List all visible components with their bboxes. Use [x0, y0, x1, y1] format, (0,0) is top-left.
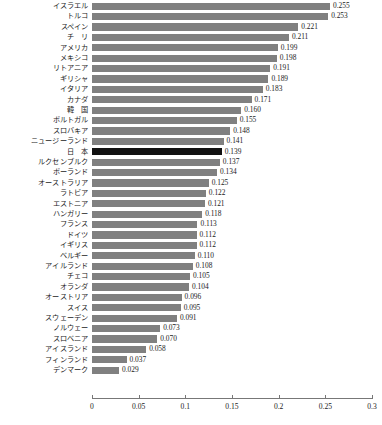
bar-value-label: 0.189 [271, 74, 288, 84]
category-label: チ リ [0, 32, 88, 42]
bar [92, 283, 189, 290]
bar-row: スロベニア0.070 [0, 334, 382, 344]
category-label: スイス [0, 303, 88, 313]
bar [92, 34, 289, 41]
category-label: アイスランド [0, 344, 88, 354]
bar-value-label: 0.255 [333, 1, 350, 11]
bar [92, 263, 193, 270]
bar [92, 335, 157, 342]
category-label: アイルランド [0, 261, 88, 271]
bar-value-label: 0.155 [240, 115, 257, 125]
bar [92, 315, 177, 322]
category-label: チェコ [0, 271, 88, 281]
category-label: ノルウェー [0, 323, 88, 333]
bar-row: スウェーデン0.091 [0, 313, 382, 323]
bar [92, 23, 298, 30]
category-label: フランス [0, 219, 88, 229]
bar-row: ポルトガル0.155 [0, 115, 382, 125]
bar [92, 346, 146, 353]
bar-value-label: 0.199 [281, 43, 298, 53]
bar-row: スロバキア0.148 [0, 126, 382, 136]
bar [92, 367, 119, 374]
bar-row: イギリス0.112 [0, 240, 382, 250]
bar-value-label: 0.198 [280, 53, 297, 63]
bar-value-label: 0.211 [292, 32, 308, 42]
bar-row: ポーランド0.134 [0, 167, 382, 177]
bar [92, 107, 241, 114]
category-label: スペイン [0, 22, 88, 32]
bar-value-label: 0.148 [233, 126, 250, 136]
bar-value-label: 0.037 [130, 355, 147, 365]
category-label: オランダ [0, 282, 88, 292]
category-label: ルクセンブルク [0, 157, 88, 167]
bar [92, 117, 237, 124]
bar-row: ギリシャ0.189 [0, 74, 382, 84]
bar-value-label: 0.070 [160, 334, 177, 344]
bar-value-label: 0.221 [301, 22, 318, 32]
category-label: オーストラリア [0, 178, 88, 188]
bar-value-label: 0.058 [149, 344, 166, 354]
x-axis-tick-label: 0.05 [132, 402, 145, 411]
bar [92, 13, 328, 20]
bar [92, 55, 277, 62]
x-axis-tick [232, 395, 233, 399]
category-label: イギリス [0, 240, 88, 250]
bar [92, 75, 268, 82]
bar-row: リトアニア0.191 [0, 63, 382, 73]
x-axis-tick [372, 395, 373, 399]
plot-area: イスラエル0.255トルコ0.253スペイン0.221チ リ0.211アメリカ0… [0, 0, 382, 398]
bar-value-label: 0.110 [198, 251, 214, 261]
category-label: イタリア [0, 84, 88, 94]
category-label: ニュージーランド [0, 136, 88, 146]
category-label: フィンランド [0, 355, 88, 365]
x-axis-tick-label: 0.3 [367, 402, 377, 411]
bar [92, 273, 190, 280]
bar [92, 252, 195, 259]
x-axis-tick-label: 0 [90, 402, 94, 411]
bar-row: イタリア0.183 [0, 84, 382, 94]
x-axis-tick [92, 395, 93, 399]
bar-value-label: 0.118 [205, 209, 221, 219]
category-label: カナダ [0, 95, 88, 105]
bar-row: フィンランド0.037 [0, 355, 382, 365]
bar-row: アイスランド0.058 [0, 344, 382, 354]
category-label: スウェーデン [0, 313, 88, 323]
bar-row: イスラエル0.255 [0, 1, 382, 11]
bar-row: ベルギー0.110 [0, 251, 382, 261]
bar-row: フランス0.113 [0, 219, 382, 229]
bar-value-label: 0.121 [208, 199, 225, 209]
bar-row: デンマーク0.029 [0, 365, 382, 375]
bar-value-label: 0.125 [212, 178, 229, 188]
bar [92, 221, 197, 228]
bar-row: スペイン0.221 [0, 22, 382, 32]
x-axis-tick-label: 0.25 [319, 402, 332, 411]
category-label: リトアニア [0, 63, 88, 73]
bar [92, 169, 217, 176]
bar [92, 138, 224, 145]
category-label: 日 本 [0, 147, 88, 157]
bar-value-label: 0.112 [200, 240, 216, 250]
category-label: ギリシャ [0, 74, 88, 84]
bar-value-label: 0.029 [122, 365, 139, 375]
category-label: オーストリア [0, 292, 88, 302]
bar-value-label: 0.139 [225, 147, 242, 157]
bar [92, 304, 181, 311]
bar-row: スイス0.095 [0, 303, 382, 313]
bar [92, 148, 222, 155]
category-label: スロベニア [0, 334, 88, 344]
bar-row: トルコ0.253 [0, 11, 382, 21]
bar-value-label: 0.104 [192, 282, 209, 292]
bar-row: アメリカ0.199 [0, 43, 382, 53]
bar [92, 211, 202, 218]
bar [92, 231, 197, 238]
bar [92, 190, 206, 197]
bar-chart: イスラエル0.255トルコ0.253スペイン0.221チ リ0.211アメリカ0… [0, 0, 382, 425]
bar-value-label: 0.108 [196, 261, 213, 271]
category-label: メキシコ [0, 53, 88, 63]
bar [92, 325, 160, 332]
bar-row: ニュージーランド0.141 [0, 136, 382, 146]
bar-row: ドイツ0.112 [0, 230, 382, 240]
bar-value-label: 0.141 [227, 136, 244, 146]
bar-row: ルクセンブルク0.137 [0, 157, 382, 167]
bar-row: カナダ0.171 [0, 95, 382, 105]
